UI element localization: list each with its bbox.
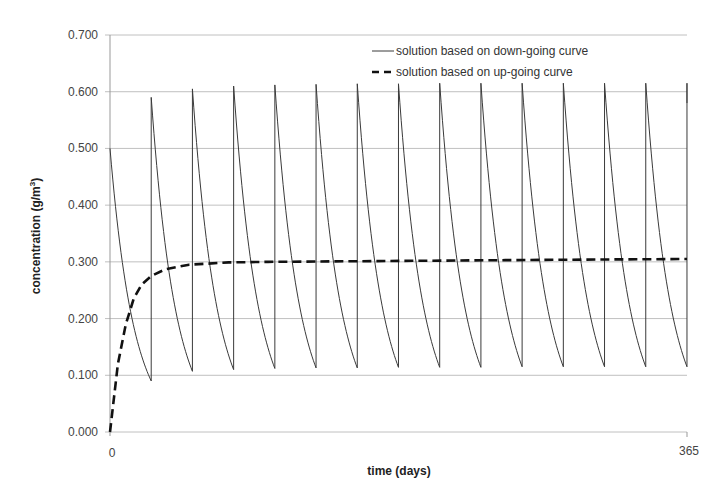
y-tick-label: 0.700 [68,28,98,42]
y-tick-label: 0.300 [68,255,98,269]
down-going-series-line [110,83,687,381]
y-axis-ticks: 0.0000.1000.2000.3000.4000.5000.6000.700 [68,28,98,439]
x-axis-title: time (days) [367,464,430,478]
y-axis-title: concentration (g/m3) [28,178,43,294]
y-tick-label: 0.400 [68,198,98,212]
y-tick-label: 0.500 [68,141,98,155]
x-tick-0: 0 [109,446,116,460]
legend-label-up-going: solution based on up-going curve [396,65,573,79]
y-tick-label: 0.000 [68,425,98,439]
x-tick-365: 365 [679,444,699,458]
y-tick-label: 0.100 [68,368,98,382]
concentration-chart: 0.0000.1000.2000.3000.4000.5000.6000.700… [0,0,710,500]
y-tick-label: 0.600 [68,85,98,99]
y-tick-label: 0.200 [68,312,98,326]
legend-label-down-going: solution based on down-going curve [396,44,588,58]
legend: solution based on down-going curve solut… [330,40,680,80]
